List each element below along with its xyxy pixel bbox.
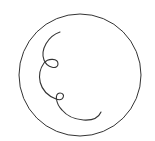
outer-circle — [19, 14, 141, 136]
circle-curl-illustration — [0, 0, 155, 141]
drawing-canvas — [0, 0, 155, 141]
curl-line — [40, 32, 101, 120]
